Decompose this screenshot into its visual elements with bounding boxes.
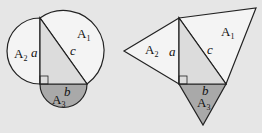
left-figure-semicircles: A2 a A1 c b A3 [7, 10, 104, 109]
pythagorean-diagram: A2 a A1 c b A3 A2 a A1 c b A3 [0, 0, 262, 133]
label-c: c [70, 43, 76, 58]
label-c: c [207, 42, 213, 57]
label-a: a [169, 44, 176, 59]
right-figure-triangles: A2 a A1 c b A3 [124, 8, 256, 125]
label-b: b [64, 84, 71, 99]
diagram-canvas: A2 a A1 c b A3 A2 a A1 c b A3 [0, 0, 262, 133]
label-a: a [31, 45, 38, 60]
